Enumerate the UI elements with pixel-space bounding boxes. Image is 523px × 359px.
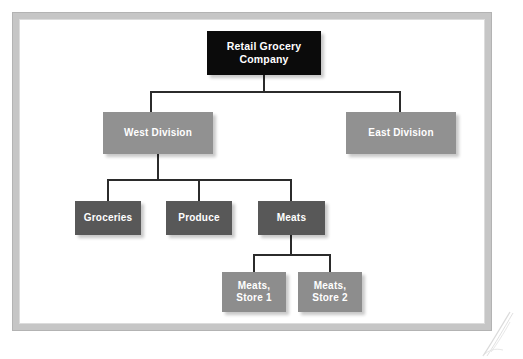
node-meats[interactable]: Meats	[258, 201, 325, 235]
node-label-produce: Produce	[178, 212, 219, 225]
connector-drop-meats	[290, 179, 292, 202]
connector-drop-east	[399, 91, 401, 113]
connector-meats-stem	[290, 235, 292, 255]
connector-drop-produce	[198, 179, 200, 202]
page-canvas: Retail Grocery Company West Division Eas…	[0, 0, 523, 359]
connector-drop-groceries	[107, 179, 109, 202]
node-meats-store-2[interactable]: Meats, Store 2	[298, 272, 362, 312]
connector-divisions-bus	[150, 91, 400, 93]
node-label-meats: Meats	[277, 212, 306, 225]
connector-drop-store-1	[253, 254, 255, 273]
org-chart: Retail Grocery Company West Division Eas…	[0, 0, 523, 359]
connector-drop-store-2	[329, 254, 331, 273]
pen-scribble-mark	[477, 306, 521, 358]
node-label-groceries: Groceries	[84, 212, 133, 225]
connector-drop-west	[150, 91, 152, 113]
node-label-east-division: East Division	[368, 127, 433, 140]
connector-west-stem	[157, 154, 159, 180]
node-label-root: Retail Grocery Company	[227, 40, 302, 66]
node-label-meats-store-1: Meats, Store 1	[236, 280, 271, 305]
node-meats-store-1[interactable]: Meats, Store 1	[222, 272, 286, 312]
node-west-division[interactable]: West Division	[103, 112, 213, 154]
node-retail-grocery-company[interactable]: Retail Grocery Company	[207, 31, 321, 75]
node-east-division[interactable]: East Division	[346, 112, 456, 154]
node-label-west-division: West Division	[124, 127, 192, 140]
node-groceries[interactable]: Groceries	[75, 201, 141, 235]
connector-stores-bus	[253, 254, 330, 256]
node-label-meats-store-2: Meats, Store 2	[312, 280, 347, 305]
node-produce[interactable]: Produce	[166, 201, 232, 235]
